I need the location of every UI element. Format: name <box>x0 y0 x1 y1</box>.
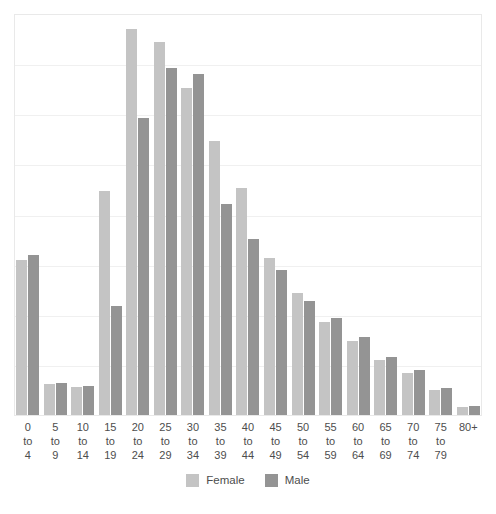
bar-male <box>331 318 342 415</box>
legend-label: Male <box>285 474 310 487</box>
bar-male <box>138 118 149 415</box>
bar-female <box>319 322 330 415</box>
chart-figure: 0 to 45 to 910 to 1415 to 1920 to 2425 t… <box>0 0 496 514</box>
bar-group <box>42 14 70 415</box>
bar-group <box>262 14 290 415</box>
bar-female <box>429 390 440 415</box>
bar-male <box>248 239 259 415</box>
x-tick-label: 50 to 54 <box>289 420 317 462</box>
bar-male <box>166 68 177 415</box>
x-tick-label: 75 to 79 <box>427 420 455 462</box>
bar-male <box>111 306 122 415</box>
bar-male <box>469 406 480 415</box>
x-tick-label: 60 to 64 <box>344 420 372 462</box>
bar-male <box>56 383 67 415</box>
bar-group <box>372 14 400 415</box>
x-tick-label: 30 to 34 <box>179 420 207 462</box>
chart-legend: FemaleMale <box>0 474 496 487</box>
legend-item-female[interactable]: Female <box>186 474 244 487</box>
bar-group <box>69 14 97 415</box>
bar-group <box>124 14 152 415</box>
bar-male <box>414 370 425 415</box>
bar-female <box>457 407 468 415</box>
bar-group <box>399 14 427 415</box>
bar-male <box>441 388 452 415</box>
bar-female <box>402 373 413 415</box>
x-tick-label: 70 to 74 <box>399 420 427 462</box>
bar-group <box>234 14 262 415</box>
x-tick-label: 40 to 44 <box>234 420 262 462</box>
bar-male <box>83 386 94 415</box>
bar-male <box>221 204 232 415</box>
bar-group <box>317 14 345 415</box>
bar-female <box>236 188 247 415</box>
bar-group <box>344 14 372 415</box>
bar-female <box>16 260 27 415</box>
bar-group <box>289 14 317 415</box>
bar-male <box>193 74 204 415</box>
bar-female <box>44 384 55 415</box>
bar-female <box>292 293 303 415</box>
bar-female <box>71 387 82 415</box>
bar-group <box>207 14 235 415</box>
bar-female <box>347 341 358 415</box>
x-tick-label: 5 to 9 <box>42 420 70 462</box>
bar-female <box>181 88 192 415</box>
bar-group <box>427 14 455 415</box>
x-tick-label: 65 to 69 <box>372 420 400 462</box>
bar-female <box>99 191 110 415</box>
x-tick-label: 25 to 29 <box>152 420 180 462</box>
bar-group <box>179 14 207 415</box>
bar-group <box>152 14 180 415</box>
bar-male <box>28 255 39 415</box>
x-tick-label: 0 to 4 <box>14 420 42 462</box>
x-tick-label: 15 to 19 <box>97 420 125 462</box>
bar-male <box>359 337 370 415</box>
bar-female <box>374 360 385 415</box>
bar-group <box>454 14 482 415</box>
x-tick-label: 55 to 59 <box>317 420 345 462</box>
legend-swatch-icon <box>265 474 278 487</box>
bar-female <box>154 42 165 415</box>
legend-label: Female <box>206 474 244 487</box>
bar-group <box>97 14 125 415</box>
bar-male <box>276 270 287 415</box>
legend-item-male[interactable]: Male <box>265 474 310 487</box>
bar-group <box>14 14 42 415</box>
bar-male <box>386 357 397 415</box>
bar-male <box>304 301 315 415</box>
bar-female <box>126 29 137 415</box>
x-axis-tick-labels: 0 to 45 to 910 to 1415 to 1920 to 2425 t… <box>14 420 482 468</box>
x-tick-label: 10 to 14 <box>69 420 97 462</box>
bar-female <box>209 141 220 415</box>
bars-layer <box>14 14 482 415</box>
x-tick-label: 45 to 49 <box>262 420 290 462</box>
bar-female <box>264 258 275 415</box>
x-tick-label: 35 to 39 <box>207 420 235 462</box>
x-tick-label: 80+ <box>454 420 482 434</box>
legend-swatch-icon <box>186 474 199 487</box>
x-tick-label: 20 to 24 <box>124 420 152 462</box>
